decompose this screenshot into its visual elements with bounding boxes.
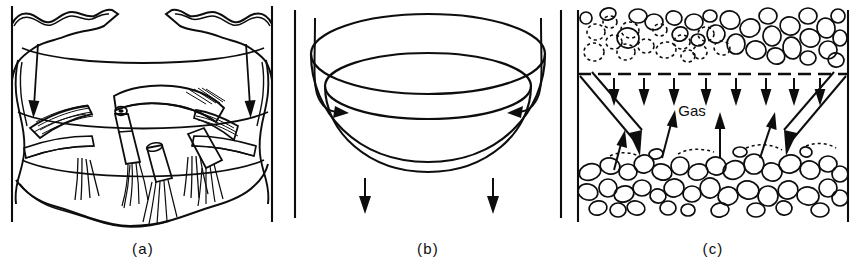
gas-label-c: Gas	[678, 102, 706, 119]
panel-b: (b)	[285, 0, 571, 268]
outflow-arrow-left-b	[359, 178, 371, 214]
panel-caption-a: (a)	[132, 240, 154, 257]
wall-downcomer-arrow-left-c	[580, 72, 642, 156]
panel-caption-b: (b)	[417, 240, 439, 257]
bowl-inner-floor-b	[325, 86, 531, 172]
flow-arrow-left-a	[28, 44, 39, 118]
bowl-body-b	[311, 54, 545, 162]
bed-inner-surface-a	[18, 48, 268, 177]
panel-caption-c: (c)	[702, 240, 723, 257]
upper-bed-solid-particles-c	[580, 7, 847, 69]
downflow-arrows-c	[609, 78, 826, 106]
outflow-arrow-right-b	[487, 178, 499, 214]
figure-container: (a)	[0, 0, 856, 268]
flow-arrow-right-a	[245, 44, 256, 118]
panel-c: Gas	[570, 0, 856, 268]
panel-a: (a)	[0, 0, 286, 268]
